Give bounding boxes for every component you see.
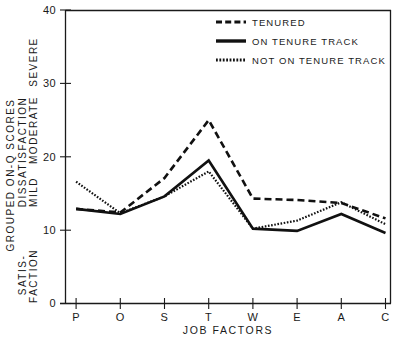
x-tick-label-s: S [161,311,169,323]
y-tick-label-40: 40 [43,4,56,16]
legend-label-not-on-tenure-track: NOT ON TENURE TRACK [252,55,386,66]
legend-label-on-tenure-track: ON TENURE TRACK [252,36,359,47]
x-tick-labels: P O S T W E A C [72,311,390,323]
y-axis-title: GROUPED ON-Q SCORES [5,99,16,252]
y-tick-label-30: 30 [43,77,56,89]
y-zone-label-moderate: MODERATE [28,96,39,164]
y-axis-description-group: GROUPED ON-Q SCORES DISSATISFACTION SEVE… [5,37,39,303]
y-axis-band-label-dissatisfaction: DISSATISFACTION [17,97,28,208]
y-tick-labels: 0 10 20 30 40 [43,4,56,309]
chart-figure: GROUPED ON-Q SCORES DISSATISFACTION SEVE… [0,0,404,337]
y-tick-label-0: 0 [49,297,56,309]
x-tick-label-t: T [205,311,212,323]
legend-entry-on-tenure-track[interactable]: ON TENURE TRACK [216,36,359,47]
legend-entry-tenured[interactable]: TENURED [216,17,306,28]
series-line-on-tenure-track [76,160,385,233]
y-zone-label-severe: SEVERE [28,37,39,87]
y-tick-label-20: 20 [43,151,56,163]
x-tick-label-a: A [337,311,345,323]
legend-entry-not-on-tenure-track[interactable]: NOT ON TENURE TRACK [216,55,386,66]
x-tick-label-o: O [116,311,125,323]
x-tick-label-c: C [381,311,389,323]
line-chart-svg: GROUPED ON-Q SCORES DISSATISFACTION SEVE… [0,0,404,337]
x-axis-title: JOB FACTORS [183,324,273,336]
y-tick-label-10: 10 [43,224,56,236]
y-zone-label-mild: MILD [28,177,39,207]
data-series-group [76,120,385,233]
y-zone-label-satis: SATIS- [17,255,28,295]
series-line-not-on-tenure-track [76,171,385,228]
x-tick-label-p: P [72,311,80,323]
x-tick-label-e: E [293,311,301,323]
legend-label-tenured: TENURED [252,17,306,28]
y-zone-label-faction: FACTION [28,249,39,303]
x-tick-label-w: W [247,311,258,323]
chart-legend: TENURED ON TENURE TRACK NOT ON TENURE TR… [216,17,386,66]
